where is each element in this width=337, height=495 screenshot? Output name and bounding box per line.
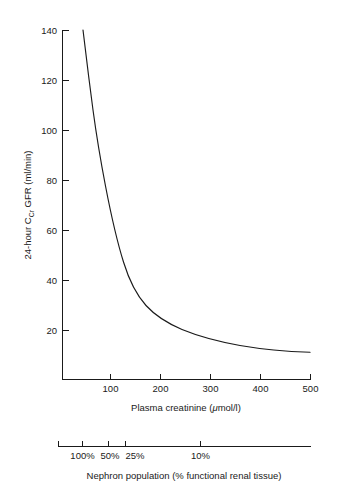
y-axis-title: 24-hour CCr GFR (ml/min) <box>22 150 35 259</box>
y-tick-label-100: 100 <box>41 125 57 136</box>
y-axis-title-main: 24-hour C <box>22 217 33 259</box>
gfr-curve <box>83 30 310 352</box>
y-tick-label-60: 60 <box>46 225 57 236</box>
y-tick-label-140: 140 <box>41 25 57 36</box>
nephron-tick-label-100pct: 100% <box>70 450 95 461</box>
y-tick-label-120: 120 <box>41 75 57 86</box>
nephron-axis-title: Nephron population (% functional renal t… <box>87 470 282 481</box>
y-axis-title-rest: GFR (ml/min) <box>22 150 33 210</box>
x-axis-title: Plasma creatinine (μmol/l) <box>131 402 241 413</box>
x-axis-title-pre: Plasma creatinine ( <box>131 402 213 413</box>
nephron-axis-tick-labels: 100% 50% 25% 10% <box>70 450 210 461</box>
x-tick-label-500: 500 <box>303 383 319 394</box>
x-tick-label-100: 100 <box>103 383 119 394</box>
y-tick-label-80: 80 <box>46 175 57 186</box>
y-axis-tick-labels: 140 120 100 80 60 40 20 <box>41 25 57 336</box>
nephron-axis-ticks <box>59 441 201 447</box>
x-axis-title-post: mol/l) <box>218 402 241 413</box>
x-axis-tick-labels: 100 200 300 400 500 <box>103 383 319 394</box>
nephron-tick-label-25pct: 25% <box>125 450 145 461</box>
y-axis-title-group: 24-hour CCr GFR (ml/min) <box>22 150 35 259</box>
nephron-tick-label-10pct: 10% <box>191 450 211 461</box>
x-tick-label-200: 200 <box>153 383 169 394</box>
y-tick-label-20: 20 <box>46 325 57 336</box>
nephron-tick-label-50pct: 50% <box>100 450 120 461</box>
x-axis-ticks <box>111 374 311 380</box>
figure-container: 140 120 100 80 60 40 20 24-hour CCr GFR … <box>0 0 337 495</box>
main-axis-lines <box>63 30 311 380</box>
y-axis-ticks <box>63 31 69 331</box>
x-tick-label-400: 400 <box>253 383 269 394</box>
y-tick-label-40: 40 <box>46 275 57 286</box>
gfr-creatinine-chart: 140 120 100 80 60 40 20 24-hour CCr GFR … <box>0 0 337 495</box>
x-tick-label-300: 300 <box>203 383 219 394</box>
